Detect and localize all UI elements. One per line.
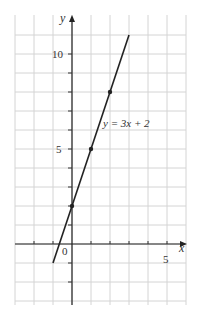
- origin-label: 0: [62, 245, 68, 257]
- grid: [15, 15, 186, 305]
- axes: [15, 15, 187, 305]
- y-tick-label-5: 5: [56, 143, 62, 155]
- equation-label: y = 3x + 2: [102, 117, 150, 129]
- data-point: [89, 147, 93, 151]
- data-point: [108, 90, 112, 94]
- x-axis-label: x: [178, 241, 185, 255]
- y-axis-label: y: [59, 11, 66, 25]
- line-graph: y x 0 5 5 10 y = 3x + 2: [0, 0, 198, 323]
- y-tick-label-10: 10: [52, 48, 64, 60]
- data-point: [70, 204, 74, 208]
- x-tick-label-5: 5: [163, 253, 169, 265]
